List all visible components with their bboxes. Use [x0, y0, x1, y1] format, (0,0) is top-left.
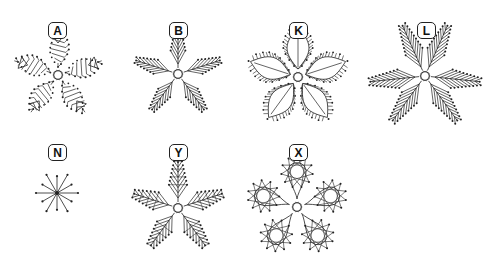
panel-label-y: Y [169, 144, 188, 161]
panel-label-n: N [48, 144, 67, 161]
string-figures-graphic [0, 0, 488, 267]
figure-y [131, 160, 224, 249]
figure-x [247, 155, 347, 252]
panel-label-a: A [48, 22, 67, 39]
panel-label-k: K [289, 22, 308, 39]
panel-label-l: L [417, 22, 436, 39]
figure-b [133, 28, 222, 113]
figure-n [35, 174, 79, 213]
panel-label-b: B [169, 22, 188, 39]
figure-a [14, 29, 102, 114]
panel-label-x: X [289, 144, 308, 161]
